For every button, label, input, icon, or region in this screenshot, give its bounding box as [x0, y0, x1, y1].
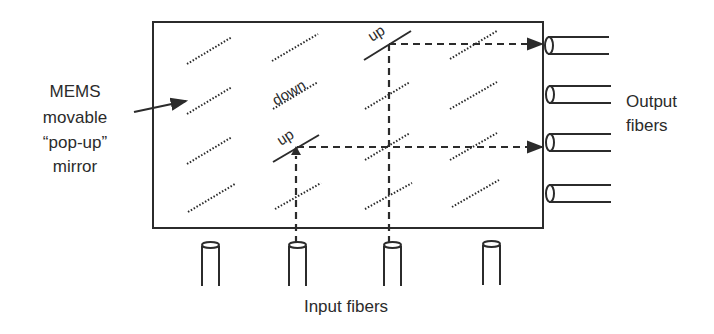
output-fibers-label-line1: Output: [626, 92, 677, 111]
mirror-r2c4: [450, 82, 497, 109]
input-fiber-2: [289, 242, 306, 286]
mirror-r1c2: [272, 34, 318, 61]
mems-label-line4: mirror: [53, 157, 98, 176]
input-fiber-3: [384, 242, 401, 286]
mems-label-line1: MEMS: [50, 82, 101, 101]
mems-switch-diagram: MEMS movable “pop-up” mirror Output fibe…: [0, 0, 714, 334]
mirror-r2c1: [187, 87, 232, 114]
input-fibers-label: Input fibers: [304, 297, 388, 316]
output-fiber-3: [546, 134, 611, 151]
mirror-r2c3: [365, 82, 410, 109]
down-mirrors: [187, 31, 499, 212]
down-label: down: [269, 76, 309, 109]
mirror-r4c4: [452, 180, 499, 207]
up-label-r3c2: up: [273, 125, 296, 148]
mirror-r4c2: [275, 183, 321, 209]
mems-label-line2: movable: [43, 108, 107, 127]
output-fiber-4: [546, 185, 611, 202]
mirror-r1c1: [187, 37, 232, 64]
mems-label-line3: “pop-up”: [43, 133, 108, 152]
output-fibers: [545, 37, 611, 202]
light-paths: [296, 44, 542, 243]
mirror-r4c1: [188, 184, 235, 212]
output-fiber-1: [545, 37, 609, 54]
input-fibers: [202, 241, 500, 286]
output-fiber-2: [546, 86, 611, 103]
input-fiber-4: [483, 241, 500, 285]
mems-pointer-arrow: [134, 101, 186, 112]
input-fiber-1: [202, 242, 219, 286]
up-label-r1c3: up: [364, 21, 387, 44]
mirror-r3c1: [187, 137, 232, 164]
output-fibers-label-line2: fibers: [626, 116, 668, 135]
